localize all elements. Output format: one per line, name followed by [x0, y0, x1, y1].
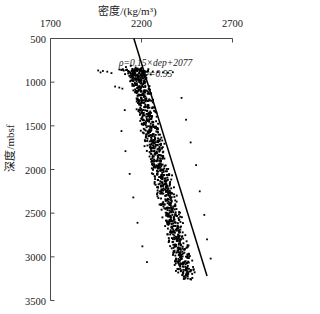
data-point: [140, 97, 142, 99]
data-point: [148, 93, 150, 95]
data-point: [162, 185, 164, 187]
outlier-point: [129, 173, 131, 175]
data-point: [146, 110, 148, 112]
data-point: [159, 180, 161, 182]
data-point: [131, 73, 133, 75]
data-point: [147, 133, 149, 135]
data-point: [182, 266, 184, 268]
data-point: [139, 104, 141, 106]
data-point: [161, 193, 163, 195]
data-point: [181, 235, 183, 237]
data-point: [180, 251, 182, 253]
data-point: [180, 249, 182, 251]
data-point: [173, 196, 175, 198]
data-point: [171, 220, 173, 222]
data-point: [167, 198, 169, 200]
scatter-points: [97, 65, 211, 281]
data-point: [145, 124, 147, 126]
data-point: [186, 240, 188, 242]
data-point: [143, 122, 145, 124]
data-point: [149, 111, 151, 113]
data-point: [182, 222, 184, 224]
data-point: [140, 130, 142, 132]
data-point: [188, 268, 190, 270]
data-point: [178, 235, 180, 237]
data-point: [154, 183, 156, 185]
data-point: [179, 216, 181, 218]
data-point: [157, 137, 159, 139]
data-point: [154, 138, 156, 140]
data-point: [140, 80, 142, 82]
data-point: [156, 165, 158, 167]
fit-line: [134, 39, 207, 277]
data-point: [165, 170, 167, 172]
data-point: [135, 78, 137, 80]
data-point: [178, 248, 180, 250]
data-point: [166, 221, 168, 223]
data-point: [177, 272, 179, 274]
data-point: [135, 68, 137, 70]
data-point: [186, 269, 188, 271]
data-point: [158, 176, 160, 178]
data-point: [154, 176, 156, 178]
data-point: [165, 195, 167, 197]
data-point: [180, 256, 182, 258]
data-point: [139, 120, 141, 122]
data-point: [176, 195, 178, 197]
data-point: [186, 266, 188, 268]
data-point: [167, 233, 169, 235]
data-point: [176, 229, 178, 231]
data-point: [161, 147, 163, 149]
data-point: [176, 201, 178, 203]
data-point: [149, 151, 151, 153]
data-point: [157, 131, 159, 133]
data-point: [160, 165, 162, 167]
data-point: [132, 89, 134, 91]
data-point: [178, 260, 180, 262]
data-point: [160, 174, 162, 176]
data-point: [155, 160, 157, 162]
data-point: [169, 181, 171, 183]
data-point: [187, 278, 189, 280]
data-point: [174, 260, 176, 262]
data-point: [191, 260, 193, 262]
data-point: [166, 177, 168, 179]
outlier-point: [137, 222, 139, 224]
data-point: [142, 115, 144, 117]
data-point: [139, 95, 141, 97]
data-point: [133, 85, 135, 87]
data-point: [149, 116, 151, 118]
data-point: [146, 71, 148, 73]
outlier-point: [121, 88, 123, 90]
data-point: [152, 164, 154, 166]
data-point: [158, 160, 160, 162]
data-point: [180, 269, 182, 271]
data-point: [149, 140, 151, 142]
data-point: [148, 131, 150, 133]
data-point: [146, 140, 148, 142]
data-point: [144, 86, 146, 88]
data-point: [154, 127, 156, 129]
data-point: [144, 104, 146, 106]
data-point: [171, 226, 173, 228]
data-point: [162, 203, 164, 205]
data-point: [175, 211, 177, 213]
data-point: [174, 208, 176, 210]
outlier-point: [190, 142, 192, 144]
data-point: [140, 82, 142, 84]
data-point: [161, 209, 163, 211]
data-point: [157, 197, 159, 199]
data-point: [137, 86, 139, 88]
outlier-point: [206, 238, 208, 240]
data-point: [159, 134, 161, 136]
outlier-point: [97, 70, 99, 72]
data-point: [147, 107, 149, 109]
data-point: [180, 245, 182, 247]
data-point: [152, 124, 154, 126]
data-point: [151, 107, 153, 109]
data-point: [160, 160, 162, 162]
data-point: [179, 231, 181, 233]
data-point: [138, 79, 140, 81]
data-point: [150, 140, 152, 142]
data-point: [176, 240, 178, 242]
